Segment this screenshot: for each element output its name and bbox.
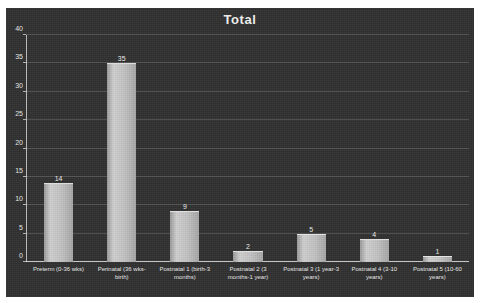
bar-value-label: 35 bbox=[118, 55, 126, 62]
bar[interactable]: 2 bbox=[233, 251, 262, 262]
bar-value-label: 1 bbox=[435, 248, 439, 255]
y-tick-label: 10 bbox=[15, 195, 23, 202]
bar[interactable]: 14 bbox=[44, 183, 73, 262]
y-tick-mark bbox=[23, 176, 26, 177]
bar[interactable]: 5 bbox=[297, 234, 326, 262]
bar-value-label: 9 bbox=[183, 203, 187, 210]
bar-slot: 1 bbox=[406, 35, 469, 262]
bar[interactable]: 9 bbox=[170, 211, 199, 262]
y-tick-mark bbox=[23, 204, 26, 205]
bar-chart-figure: Total 0510152025303540 143592541 Preterm… bbox=[6, 8, 474, 297]
y-tick-label: 0 bbox=[19, 252, 23, 259]
y-tick-label: 15 bbox=[15, 166, 23, 173]
y-tick-mark bbox=[23, 62, 26, 63]
x-axis-category-labels: Preterm (0-36 wks)Perinatal (36 wks-birt… bbox=[27, 264, 469, 291]
x-axis-label: Postnatal 1 (birth-3 months) bbox=[153, 264, 216, 291]
bar-slot: 35 bbox=[90, 35, 153, 262]
y-tick-label: 25 bbox=[15, 110, 23, 117]
y-tick-mark bbox=[23, 34, 26, 35]
bar-slot: 5 bbox=[280, 35, 343, 262]
bar-slot: 9 bbox=[153, 35, 216, 262]
bar[interactable]: 4 bbox=[360, 239, 389, 262]
x-axis-label: Perinatal (36 wks-birth) bbox=[90, 264, 153, 291]
x-axis-label: Preterm (0-36 wks) bbox=[27, 264, 90, 291]
y-tick-label: 5 bbox=[19, 223, 23, 230]
y-tick-label: 35 bbox=[15, 53, 23, 60]
y-tick-mark bbox=[23, 261, 26, 262]
chart-title: Total bbox=[6, 12, 474, 27]
bar-slot: 4 bbox=[343, 35, 406, 262]
x-axis-label: Postnatal 3 (1 year-3 years) bbox=[280, 264, 343, 291]
x-axis-label: Postnatal 2 (3 months-1 year) bbox=[216, 264, 279, 291]
bar[interactable]: 1 bbox=[423, 256, 452, 262]
bar-value-label: 5 bbox=[309, 226, 313, 233]
y-tick-mark bbox=[23, 91, 26, 92]
y-tick-mark bbox=[23, 119, 26, 120]
bar-slot: 2 bbox=[216, 35, 279, 262]
x-axis-label: Postnatal 5 (10-60 years) bbox=[406, 264, 469, 291]
bar[interactable]: 35 bbox=[107, 63, 136, 262]
bar-slot: 14 bbox=[27, 35, 90, 262]
bar-value-label: 4 bbox=[372, 231, 376, 238]
bars-container: 143592541 bbox=[27, 35, 469, 262]
plot-area: 0510152025303540 143592541 bbox=[26, 35, 469, 262]
y-tick-label: 20 bbox=[15, 138, 23, 145]
x-axis-label: Postnatal 4 (3-10 years) bbox=[343, 264, 406, 291]
y-tick-mark bbox=[23, 148, 26, 149]
bar-value-label: 2 bbox=[246, 243, 250, 250]
y-tick-label: 30 bbox=[15, 81, 23, 88]
bar-value-label: 14 bbox=[55, 175, 63, 182]
y-tick-mark bbox=[23, 233, 26, 234]
